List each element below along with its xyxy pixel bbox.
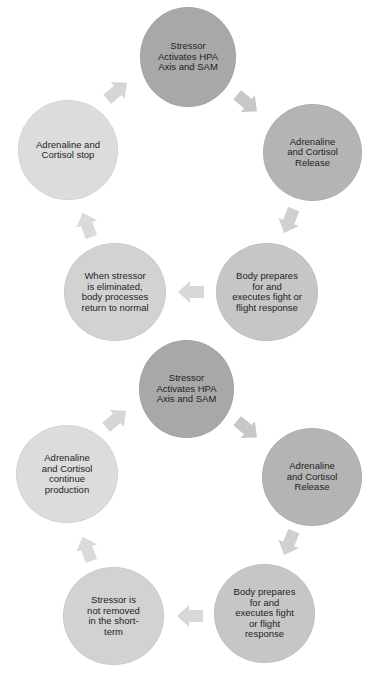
node-hormones-continue: Adrenaline and Cortisol continue product… — [16, 425, 118, 523]
node-label: Stressor is not removed in the short-ter… — [85, 595, 143, 637]
node-label: Adrenaline and Cortisol continue product… — [37, 453, 97, 495]
node-label: Adrenaline and Cortisol Release — [282, 137, 344, 169]
node-label: Adrenaline and Cortisol stop — [33, 140, 103, 161]
node-fight-or-flight: Body prepares for and executes fight or … — [216, 243, 318, 341]
arrow-right-icon — [274, 527, 304, 559]
cycle-diagram-acute: Stressor Activates HPA Axis and SAM Adre… — [0, 0, 374, 340]
node-label: Adrenaline and Cortisol Release — [281, 461, 343, 493]
arrow-right-icon — [230, 86, 264, 120]
node-hormone-release: Adrenaline and Cortisol Release — [262, 428, 362, 526]
arrow-right-icon — [177, 605, 203, 627]
node-stressor-activates: Stressor Activates HPA Axis and SAM — [139, 340, 234, 438]
arrow-right-icon — [274, 205, 304, 237]
node-stressor-not-removed: Stressor is not removed in the short-ter… — [63, 567, 164, 665]
arrow-right-icon — [178, 281, 204, 303]
arrow-right-icon — [100, 74, 134, 108]
node-label: Body prepares for and executes fight or … — [232, 271, 302, 313]
node-return-to-normal: When stressor is eliminated, body proces… — [64, 243, 166, 341]
arrow-right-icon — [230, 412, 264, 446]
node-label: Stressor Activates HPA Axis and SAM — [156, 373, 218, 405]
node-label: Body prepares for and executes fight or … — [233, 587, 297, 640]
arrow-right-icon — [99, 402, 133, 436]
node-label: Stressor Activates HPA Axis and SAM — [157, 41, 219, 73]
cycle-diagram-chronic: Stressor Activates HPA Axis and SAM Adre… — [0, 332, 374, 672]
node-stressor-activates: Stressor Activates HPA Axis and SAM — [140, 7, 236, 107]
node-hormone-release: Adrenaline and Cortisol Release — [263, 104, 362, 201]
node-hormones-stop: Adrenaline and Cortisol stop — [18, 100, 118, 200]
node-fight-or-flight: Body prepares for and executes fight or … — [214, 564, 315, 663]
arrow-right-icon — [72, 533, 102, 565]
arrow-right-icon — [72, 209, 102, 241]
node-label: When stressor is eliminated, body proces… — [80, 271, 150, 313]
